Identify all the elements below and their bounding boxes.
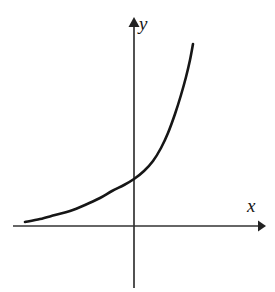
graph-canvas [0,0,275,292]
exponential-curve [25,44,193,222]
graph-figure: y x [0,0,275,292]
x-axis-label: x [247,196,255,215]
y-axis-label: y [139,14,147,33]
x-axis-arrow-icon [258,221,266,232]
y-axis-arrow-icon [129,17,140,27]
